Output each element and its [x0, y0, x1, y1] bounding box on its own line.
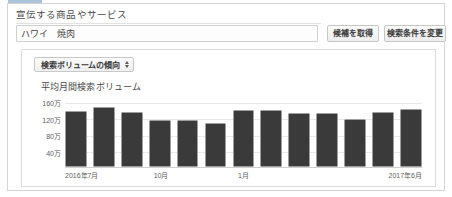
x-axis-tick-label: 1月 [238, 170, 249, 180]
bar[interactable] [121, 112, 143, 167]
y-axis-tick-label: 40万 [46, 148, 61, 158]
bar[interactable] [205, 123, 227, 167]
bar[interactable] [93, 107, 115, 167]
fetch-suggestions-button[interactable]: 候補を取得 [327, 25, 379, 42]
y-axis-tick-label: 120万 [42, 115, 61, 125]
y-axis-tick-label: 160万 [42, 98, 61, 108]
axis-baseline [65, 167, 422, 168]
bar[interactable] [316, 113, 338, 167]
metric-select[interactable]: 検索ボリュームの傾向 [34, 57, 134, 72]
bar[interactable] [233, 110, 255, 167]
product-service-input[interactable] [16, 25, 318, 42]
bar[interactable] [149, 120, 171, 167]
product-service-field-group: 宣伝する商品やサービス [16, 9, 438, 24]
input-row: 候補を取得 検索条件を変更 [16, 25, 440, 44]
bar[interactable] [65, 111, 87, 167]
x-axis-tick-label: 2016年7月 [65, 170, 98, 180]
change-search-criteria-button[interactable]: 検索条件を変更 [384, 25, 446, 42]
label-underline [16, 23, 321, 24]
search-volume-chart: 40万80万120万160万 2016年7月10月1月2017年6月 [34, 95, 426, 183]
product-service-label: 宣伝する商品やサービス [16, 9, 438, 21]
bar[interactable] [260, 110, 282, 167]
search-volume-panel: 検索ボリュームの傾向 平均月間検索ボリューム 40万80万120万160万 20… [21, 49, 436, 187]
bar[interactable] [400, 109, 422, 167]
product-service-card: 宣伝する商品やサービス 候補を取得 検索条件を変更 検索ボリュームの傾向 平均月… [7, 3, 445, 191]
x-axis-tick-label: 10月 [154, 170, 169, 180]
bar[interactable] [344, 119, 366, 167]
x-axis-tick-label: 2017年6月 [389, 170, 422, 180]
x-axis: 2016年7月10月1月2017年6月 [65, 170, 422, 182]
metric-select-label: 検索ボリュームの傾向 [41, 59, 120, 70]
chart-title: 平均月間検索ボリューム [41, 80, 141, 93]
bar[interactable] [372, 112, 394, 167]
chevron-updown-icon [125, 61, 129, 69]
bar[interactable] [177, 120, 199, 167]
bar[interactable] [288, 113, 310, 167]
y-axis-tick-label: 80万 [46, 131, 61, 141]
plot-area: 40万80万120万160万 [65, 95, 422, 168]
bar-series [65, 95, 422, 167]
